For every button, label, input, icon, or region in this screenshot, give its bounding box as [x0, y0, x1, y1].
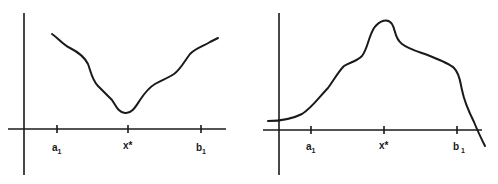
- left-label-b: b1: [196, 142, 206, 155]
- left-panel: a1 x* b1: [8, 13, 226, 175]
- left-curve-minimum: [52, 34, 218, 113]
- right-label-a: a1: [306, 141, 316, 154]
- right-curve-maximum: [268, 21, 485, 146]
- right-panel: a1 x* b1: [263, 13, 485, 175]
- right-label-b: b1: [453, 141, 465, 154]
- right-label-xstar: x*: [379, 140, 389, 151]
- left-label-a: a1: [52, 142, 62, 155]
- left-label-xstar: x*: [123, 140, 133, 151]
- figure: a1 x* b1 a1 x* b1: [0, 0, 498, 184]
